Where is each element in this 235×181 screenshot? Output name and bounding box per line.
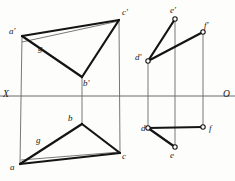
edge-d-e xyxy=(148,128,175,147)
label-b-prime: b' xyxy=(83,79,89,88)
label-b: b xyxy=(68,114,73,123)
technical-drawing-canvas: X O a'b'c'gabcgd'e'f'def xyxy=(0,0,235,181)
projector-c xyxy=(119,20,120,153)
label-a-prime: a' xyxy=(9,27,15,36)
label-e-prime: e' xyxy=(170,6,176,15)
label-g-prime: g xyxy=(38,44,43,53)
label-a: a xyxy=(10,163,15,172)
projector-lines-group xyxy=(20,19,203,164)
edge-b-prime-c-prime xyxy=(82,20,119,77)
label-c: c xyxy=(122,152,126,161)
edge-a-prime-c-prime xyxy=(22,20,119,36)
label-f-prime: f' xyxy=(204,21,208,30)
edge-d-f xyxy=(148,127,203,128)
vertex-marker-e-prime xyxy=(173,17,177,21)
object-edges-group xyxy=(20,19,203,164)
label-e: e xyxy=(170,151,174,160)
vertex-marker-d xyxy=(146,126,150,130)
edge-b-c xyxy=(82,124,120,153)
axis-label-o: O xyxy=(223,90,230,100)
auxiliary-line-a-prime-c-prime-to-b-prime xyxy=(22,21,119,42)
vertex-marker-f xyxy=(201,125,205,129)
edge-a-prime-b-prime xyxy=(22,36,82,77)
vertex-marker-d-prime xyxy=(146,59,150,63)
vertex-marker-f-prime xyxy=(201,30,205,34)
vertex-marker-e xyxy=(173,145,177,149)
projector-a xyxy=(20,36,22,164)
label-c-prime: c' xyxy=(122,8,128,17)
label-g: g xyxy=(36,136,41,145)
label-f: f xyxy=(209,124,212,133)
geometry-vector-layer xyxy=(0,0,235,181)
axis-label-x: X xyxy=(3,90,9,100)
label-d: d xyxy=(141,124,146,133)
label-d-prime: d' xyxy=(135,53,141,62)
